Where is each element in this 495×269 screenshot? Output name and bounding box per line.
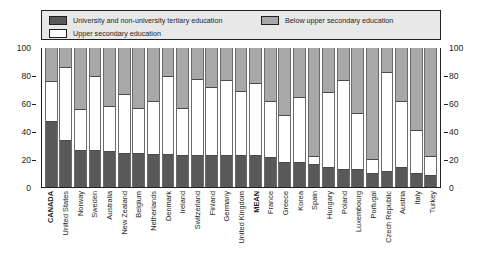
- bar-united-kingdom[interactable]: [235, 48, 248, 187]
- y-tick-mark: [444, 104, 448, 105]
- y-tick-label: 20: [449, 156, 459, 164]
- bar-switzerland[interactable]: [191, 48, 204, 187]
- x-axis-label-finland: Finland: [205, 190, 218, 266]
- segment-below-upper-secondary: [250, 48, 261, 83]
- x-axis-label-text: Italy: [414, 191, 421, 205]
- x-axis-label-text: Norway: [76, 191, 83, 216]
- legend-item-upper-secondary: Upper secondary education: [49, 28, 222, 39]
- bar-france[interactable]: [264, 48, 277, 187]
- x-axis-label-australia: Australia: [103, 190, 116, 266]
- segment-below-upper-secondary: [206, 48, 217, 87]
- segment-tertiary: [309, 165, 320, 187]
- segment-below-upper-secondary: [148, 48, 159, 101]
- x-axis-label-spain: Spain: [308, 190, 321, 266]
- x-axis-label-czech-republic: Czech Republic: [381, 190, 394, 266]
- bar-australia[interactable]: [103, 48, 116, 187]
- bar-spain[interactable]: [308, 48, 321, 187]
- y-tick-label: 80: [449, 72, 459, 80]
- bar-germany[interactable]: [220, 48, 233, 187]
- y-tick-mark: [444, 132, 448, 133]
- segment-tertiary: [323, 168, 334, 187]
- y-tick-mark: [32, 76, 36, 77]
- x-axis-label-text: Portugal: [370, 191, 377, 219]
- bar-austria[interactable]: [395, 48, 408, 187]
- bar-united-states[interactable]: [59, 48, 72, 187]
- bar-korea[interactable]: [293, 48, 306, 187]
- bar-finland[interactable]: [205, 48, 218, 187]
- segment-tertiary: [294, 163, 305, 187]
- segment-below-upper-secondary: [338, 48, 349, 80]
- bar-italy[interactable]: [410, 48, 423, 187]
- bar-poland[interactable]: [337, 48, 350, 187]
- y-tick-label: 100: [449, 44, 463, 52]
- segment-tertiary: [177, 156, 188, 187]
- segment-below-upper-secondary: [425, 48, 436, 156]
- y-tick-label: 20: [21, 156, 31, 164]
- x-axis-label-text: Belgium: [135, 191, 142, 218]
- bar-netherlands[interactable]: [147, 48, 160, 187]
- segment-tertiary: [367, 174, 378, 187]
- legend-column-left: University and non-university tertiary e…: [49, 15, 222, 39]
- bar-denmark[interactable]: [162, 48, 175, 187]
- segment-below-upper-secondary: [294, 48, 305, 97]
- x-axis-category-labels: CANADAUnited StatesNorwaySwedenAustralia…: [41, 190, 441, 266]
- x-axis-label-mean: MEAN: [249, 190, 262, 266]
- x-axis-label-text: CANADA: [47, 191, 54, 223]
- segment-tertiary: [119, 154, 130, 187]
- segment-tertiary: [236, 156, 247, 187]
- bar-czech-republic[interactable]: [381, 48, 394, 187]
- segment-below-upper-secondary: [177, 48, 188, 108]
- segment-tertiary: [46, 122, 57, 187]
- x-axis-label-text: Denmark: [164, 191, 171, 221]
- segment-below-upper-secondary: [382, 48, 393, 72]
- y-tick-label: 80: [21, 72, 31, 80]
- x-axis-label-ireland: Ireland: [176, 190, 189, 266]
- segment-tertiary: [382, 172, 393, 187]
- x-axis-label-netherlands: Netherlands: [147, 190, 160, 266]
- x-axis-label-italy: Italy: [411, 190, 424, 266]
- x-axis-label-denmark: Denmark: [161, 190, 174, 266]
- segment-below-upper-secondary: [133, 48, 144, 108]
- segment-upper-secondary: [236, 91, 247, 156]
- bar-canada[interactable]: [45, 48, 58, 187]
- x-axis-label-text: Ireland: [179, 191, 186, 214]
- x-axis-label-text: Greece: [282, 191, 289, 215]
- x-axis-label-turkey: Turkey: [425, 190, 438, 266]
- legend-item-tertiary: University and non-university tertiary e…: [49, 15, 222, 26]
- segment-upper-secondary: [425, 156, 436, 175]
- bar-belgium[interactable]: [132, 48, 145, 187]
- x-axis-label-sweden: Sweden: [88, 190, 101, 266]
- segment-below-upper-secondary: [46, 48, 57, 81]
- segment-upper-secondary: [338, 80, 349, 170]
- x-axis-label-text: France: [267, 191, 274, 214]
- segment-upper-secondary: [192, 79, 203, 157]
- bar-norway[interactable]: [74, 48, 87, 187]
- segment-tertiary: [250, 156, 261, 187]
- bar-sweden[interactable]: [89, 48, 102, 187]
- bar-new-zealand[interactable]: [118, 48, 131, 187]
- segment-below-upper-secondary: [192, 48, 203, 79]
- segment-tertiary: [279, 163, 290, 187]
- segment-below-upper-secondary: [119, 48, 130, 94]
- bar-turkey[interactable]: [424, 48, 437, 187]
- segment-upper-secondary: [367, 159, 378, 174]
- segment-below-upper-secondary: [323, 48, 334, 92]
- segment-tertiary: [338, 170, 349, 187]
- chart-legend: University and non-university tertiary e…: [41, 10, 441, 40]
- segment-tertiary: [206, 156, 217, 187]
- bar-ireland[interactable]: [176, 48, 189, 187]
- x-axis-label-canada: CANADA: [44, 190, 57, 266]
- y-tick-label: 100: [17, 44, 31, 52]
- bar-greece[interactable]: [278, 48, 291, 187]
- segment-upper-secondary: [221, 80, 232, 156]
- segment-tertiary: [396, 168, 407, 187]
- segment-tertiary: [425, 176, 436, 187]
- bar-portugal[interactable]: [366, 48, 379, 187]
- x-axis-label-austria: Austria: [396, 190, 409, 266]
- legend-column-right: Below upper secondary education: [261, 15, 393, 26]
- bar-hungary[interactable]: [322, 48, 335, 187]
- bar-luxembourg[interactable]: [351, 48, 364, 187]
- segment-below-upper-secondary: [411, 48, 422, 130]
- x-axis-label-new-zealand: New Zealand: [117, 190, 130, 266]
- bar-mean[interactable]: [249, 48, 262, 187]
